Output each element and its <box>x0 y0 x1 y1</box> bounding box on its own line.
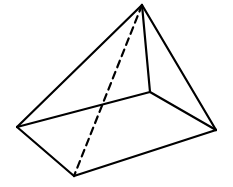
pyramid-diagram <box>0 0 233 187</box>
edge-left-back <box>17 92 150 127</box>
edge-apex-left <box>17 5 142 127</box>
edge-back-right <box>150 92 216 130</box>
edge-front-right <box>74 130 216 176</box>
edge-apex-right <box>142 5 216 130</box>
edge-left-front <box>17 127 74 176</box>
hidden-edges <box>74 5 142 176</box>
visible-edges <box>17 5 216 176</box>
edge-apex-front <box>74 5 142 176</box>
